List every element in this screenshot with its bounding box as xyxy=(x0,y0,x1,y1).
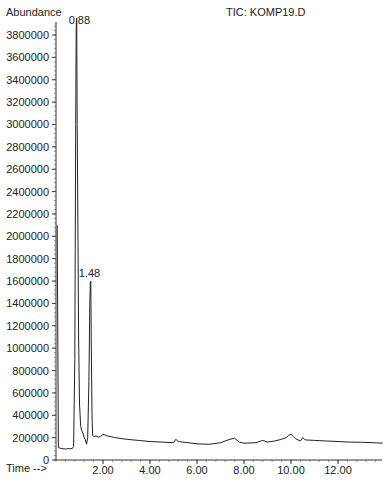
y-tick-label: 1600000 xyxy=(6,275,49,287)
y-tick-label: 600000 xyxy=(12,387,49,399)
y-tick-label: 800000 xyxy=(12,365,49,377)
tic-series-line xyxy=(57,18,383,449)
y-tick-label: 1200000 xyxy=(6,320,49,332)
y-tick-label: 1000000 xyxy=(6,342,49,354)
chart-title: TIC: KOMP19.D xyxy=(226,6,306,18)
y-tick-label: 3600000 xyxy=(6,51,49,63)
x-axis-label: Time --> xyxy=(6,462,47,474)
y-tick-label: 3200000 xyxy=(6,96,49,108)
y-axis: 0200000400000600000800000100000012000001… xyxy=(6,22,56,466)
y-tick-label: 1800000 xyxy=(6,253,49,265)
x-tick-label: 12.00 xyxy=(324,464,352,476)
y-tick-label: 2200000 xyxy=(6,208,49,220)
y-tick-label: 200000 xyxy=(12,432,49,444)
y-tick-label: 2000000 xyxy=(6,230,49,242)
peak-label: 1.48 xyxy=(79,267,100,279)
plot-area: 0.881.48 xyxy=(57,14,383,449)
x-tick-label: 6.00 xyxy=(186,464,207,476)
x-tick-label: 4.00 xyxy=(139,464,160,476)
y-tick-label: 3000000 xyxy=(6,118,49,130)
chromatogram-chart: 0200000400000600000800000100000012000001… xyxy=(0,0,391,484)
peak-label: 0.88 xyxy=(69,14,90,26)
y-tick-label: 2400000 xyxy=(6,186,49,198)
y-axis-label: Abundance xyxy=(6,6,62,18)
y-tick-label: 400000 xyxy=(12,409,49,421)
y-tick-label: 2800000 xyxy=(6,141,49,153)
x-axis: 2.004.006.008.0010.0012.00 xyxy=(56,460,382,476)
x-tick-label: 10.00 xyxy=(277,464,305,476)
y-tick-label: 3400000 xyxy=(6,74,49,86)
y-tick-label: 2600000 xyxy=(6,163,49,175)
y-tick-label: 3800000 xyxy=(6,29,49,41)
y-tick-label: 1400000 xyxy=(6,297,49,309)
x-tick-label: 2.00 xyxy=(92,464,113,476)
x-tick-label: 8.00 xyxy=(233,464,254,476)
